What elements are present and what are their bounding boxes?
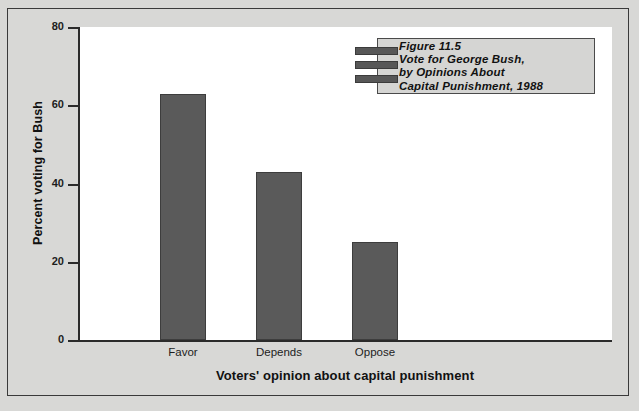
x-axis-title: Voters' opinion about capital punishment xyxy=(78,368,612,383)
y-tick-80 xyxy=(68,27,79,29)
bar-depends xyxy=(256,172,302,340)
category-label-oppose: Oppose xyxy=(335,346,415,359)
y-tick-40 xyxy=(68,184,79,186)
decorative-bar-3 xyxy=(355,75,398,83)
category-label-depends: Depends xyxy=(239,346,319,359)
y-tick-label-0: 0 xyxy=(18,334,64,345)
caption-line-4: Capital Punishment, 1988 xyxy=(399,80,594,93)
category-label-favor: Favor xyxy=(143,346,223,359)
y-tick-label-80-wrap: 80 xyxy=(0,21,64,32)
caption-line-1: Figure 11.5 xyxy=(399,40,594,53)
y-axis-title: Percent voting for Bush xyxy=(31,73,45,273)
caption-text: Figure 11.5 Vote for George Bush, by Opi… xyxy=(399,40,594,93)
bar-oppose xyxy=(352,242,398,340)
y-tick-0 xyxy=(68,340,79,342)
y-tick-label-80: 80 xyxy=(18,21,64,32)
caption-line-3: by Opinions About xyxy=(399,66,594,79)
x-axis-line xyxy=(78,340,612,342)
decorative-bar-1 xyxy=(355,47,398,55)
decorative-bar-2 xyxy=(355,61,398,69)
figure-container: 80 60 40 20 0 Favor Depends Oppose Voter… xyxy=(0,0,639,411)
y-tick-60 xyxy=(68,105,79,107)
y-tick-label-0-wrap: 0 xyxy=(0,334,64,345)
caption-line-2: Vote for George Bush, xyxy=(399,53,594,66)
bar-favor xyxy=(160,94,206,340)
y-tick-20 xyxy=(68,262,79,264)
